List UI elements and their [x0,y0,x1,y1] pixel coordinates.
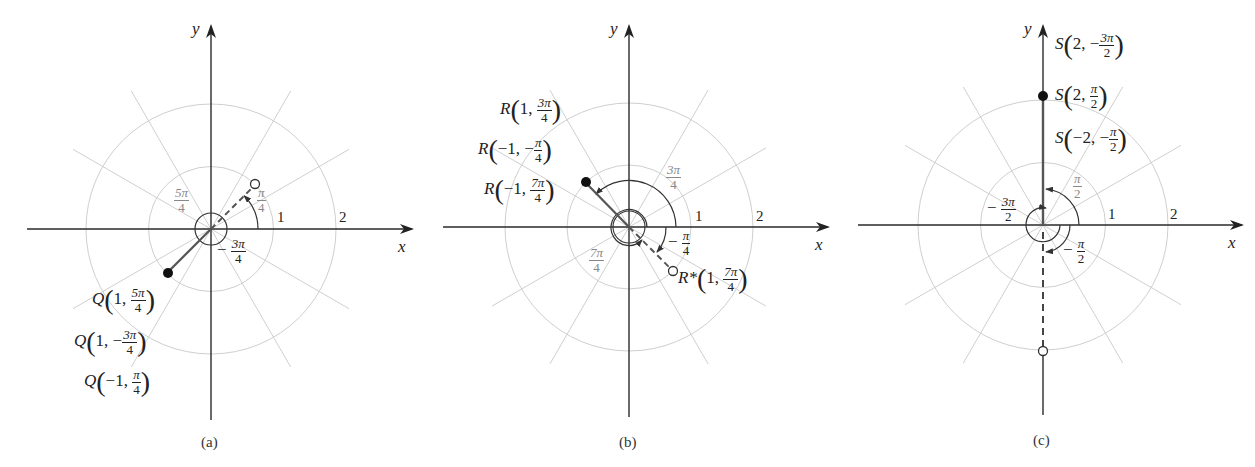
angle-label-neg-pi4-b: − π4 [668,229,690,257]
angle-label-pi2-c: π2 [1073,172,1082,200]
y-axis-label-a: y [192,20,200,37]
x-axis-label-a: x [398,238,406,255]
point-label-Q-2: Q(1, −3π4) [74,328,147,356]
open-point-c [1039,347,1048,356]
angle-label-pi4-a: π4 [257,186,266,214]
point-label-R-2: R(−1, −π4) [478,136,552,164]
point-label-R-3: R(−1, 7π4) [484,176,555,204]
angle-label-neg-3pi4-a: − 3π4 [217,237,246,265]
x-axis-label-b: x [815,236,823,253]
open-point-R-star [669,267,678,276]
point-label-Q-3: Q(−1, π4) [84,368,150,396]
ring-label-2-c: 2 [1170,207,1178,222]
point-label-Q-1: Q(1, 5π4) [92,286,155,314]
y-axis-label-b: y [610,20,618,37]
ring-label-2-b: 2 [756,209,764,224]
point-label-S-2: S(2, π2) [1055,82,1108,110]
panel-c [858,26,1242,415]
x-axis-label-c: x [1228,234,1236,251]
caption-b: (b) [619,434,637,451]
panel-a [27,26,412,420]
point-label-S-1: S(2, −3π2) [1055,31,1124,59]
point-S [1038,91,1048,101]
angle-label-5pi4-a: 5π4 [174,186,189,214]
angle-label-7pi4-b: 7π4 [589,246,604,274]
point-label-R-1: R(1, 3π4) [500,96,561,124]
y-axis-label-c: y [1024,20,1032,37]
point-label-R-star: R*(1, 7π4) [678,265,748,293]
angle-arc-neg-pi4-b [657,227,666,252]
angle-arc-pi4-a [244,196,258,229]
angle-label-3pi4-b: 3π4 [666,163,681,191]
ring-label-1-c: 1 [1108,207,1116,222]
caption-c: (c) [1033,432,1050,449]
angle-label-neg-pi2-c: − π2 [1063,237,1085,265]
ring-label-2-a: 2 [339,210,347,225]
point-R [581,177,591,187]
caption-a: (a) [201,434,218,451]
ring-label-1-b: 1 [695,209,703,224]
point-label-S-3: S(−2, −π2) [1055,125,1127,153]
ring-label-1-a: 1 [277,210,285,225]
panel-b [443,26,828,417]
point-Q [163,268,173,278]
polar-diagrams-canvas [0,0,1255,467]
angle-label-neg-3pi2-c: − 3π2 [987,195,1016,223]
